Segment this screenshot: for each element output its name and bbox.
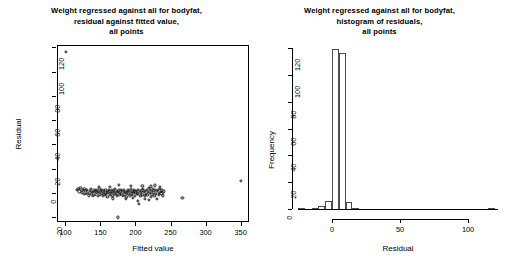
- scatter-xtick: [241, 222, 242, 226]
- scatter-xaxis-title: Fitted value: [132, 244, 173, 253]
- scatter-xtick-label: 350: [234, 228, 246, 237]
- histogram-ytick: [288, 182, 292, 183]
- histogram-ytick-label: 40: [289, 164, 298, 172]
- scatter-title-line-3: all points: [0, 27, 253, 38]
- histogram-bar: [346, 202, 353, 209]
- histogram-xaxis-title: Residual: [382, 244, 413, 253]
- scatter-ytick: [52, 120, 56, 121]
- histogram-bar: [325, 201, 332, 209]
- histogram-yaxis-line: [292, 48, 293, 209]
- scatter-ytick: [52, 47, 56, 48]
- histogram-xtick-label: 0: [330, 225, 334, 234]
- histogram-ytick-label: 120: [293, 59, 302, 71]
- histogram-ytick: [288, 75, 292, 76]
- histogram-ytick-label: 20: [289, 191, 298, 199]
- scatter-xtick: [100, 222, 101, 226]
- scatter-ytick-label: 40: [53, 153, 62, 161]
- histogram-title-line-2: histogram of residuals,: [253, 17, 506, 28]
- scatter-ytick-label: -20: [55, 227, 64, 238]
- figure-canvas: Weight regressed against all for bodyfat…: [0, 0, 506, 265]
- scatter-xtick: [206, 222, 207, 226]
- histogram-ytick: [288, 102, 292, 103]
- histogram-plot-area: [298, 48, 498, 209]
- scatter-xtick-label: 200: [129, 228, 141, 237]
- histogram-ytick: [288, 48, 292, 49]
- histogram-xtick-label: 50: [396, 225, 404, 234]
- scatter-plot-area: [57, 45, 249, 222]
- scatter-ytick-label: 20: [53, 177, 62, 185]
- scatter-ytick: [52, 96, 56, 97]
- scatter-title-line-1: Weight regressed against all for bodyfat…: [0, 6, 253, 17]
- histogram-ytick-label: 80: [289, 110, 298, 118]
- histogram-xtick: [400, 219, 401, 223]
- scatter-ytick-label: 0: [49, 199, 58, 203]
- histogram-ytick: [288, 209, 292, 210]
- histogram-bar: [339, 53, 346, 209]
- scatter-yaxis-title: Residual: [14, 118, 23, 149]
- histogram-bar: [332, 49, 339, 209]
- scatter-panel: Weight regressed against all for bodyfat…: [0, 0, 253, 265]
- histogram-ytick-label: 60: [289, 137, 298, 145]
- scatter-ytick: [52, 72, 56, 73]
- scatter-xtick-label: 250: [164, 228, 176, 237]
- scatter-ytick-label: 80: [53, 105, 62, 113]
- scatter-title: Weight regressed against all for bodyfat…: [0, 6, 253, 38]
- histogram-xtick: [468, 219, 469, 223]
- histogram-ytick: [288, 129, 292, 130]
- scatter-ytick: [52, 193, 56, 194]
- histogram-title-line-1: Weight regressed against all for bodyfat…: [253, 6, 506, 17]
- scatter-ytick-label: 100: [57, 82, 66, 94]
- scatter-xtick-label: 150: [94, 228, 106, 237]
- scatter-ytick-label: 120: [57, 58, 66, 70]
- scatter-xtick: [135, 222, 136, 226]
- histogram-title: Weight regressed against all for bodyfat…: [253, 6, 506, 38]
- histogram-xtick-label: 100: [462, 225, 474, 234]
- histogram-xtick: [332, 219, 333, 223]
- histogram-title-line-3: all points: [253, 27, 506, 38]
- scatter-ytick: [52, 169, 56, 170]
- scatter-xtick: [65, 222, 66, 226]
- scatter-title-line-2: residual against fitted value,: [0, 17, 253, 28]
- histogram-yaxis-title: Frequency: [267, 131, 276, 169]
- scatter-ytick-label: 60: [53, 129, 62, 137]
- scatter-ytick: [52, 217, 56, 218]
- scatter-xtick: [171, 222, 172, 226]
- histogram-panel: Weight regressed against all for bodyfat…: [253, 0, 506, 265]
- scatter-xtick-label: 300: [199, 228, 211, 237]
- histogram-baseline: [298, 209, 498, 210]
- scatter-ytick: [52, 144, 56, 145]
- histogram-ytick-label: 100: [293, 86, 302, 98]
- histogram-ytick-label: 0: [285, 216, 294, 220]
- histogram-ytick: [288, 155, 292, 156]
